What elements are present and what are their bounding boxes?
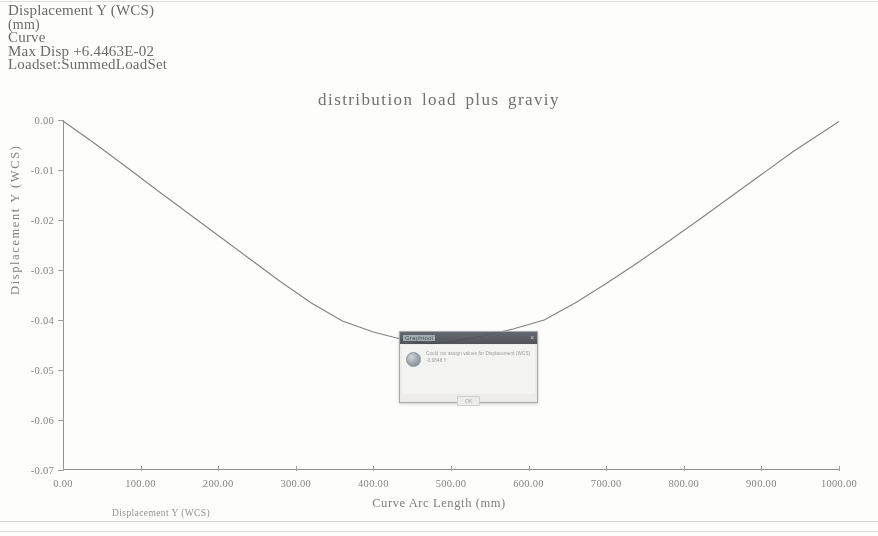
y-tick-label: -0.06 — [31, 415, 54, 426]
y-tick-label: -0.02 — [31, 215, 54, 226]
x-tick-label: 800.00 — [668, 478, 699, 489]
dialog-footer: OK — [400, 394, 537, 407]
x-tick-label: 0.00 — [53, 478, 73, 489]
x-tick-label: 600.00 — [513, 478, 544, 489]
y-tick-label: -0.04 — [31, 315, 54, 326]
graphtool-dialog[interactable]: Graphtool × Could not assign values for … — [399, 331, 538, 403]
y-axis-title: Displacement Y (WCS) — [8, 145, 23, 296]
graph-annotation-block: Displacement Y (WCS) (mm) Curve Max Disp… — [8, 4, 167, 72]
y-tick-label: -0.01 — [31, 165, 54, 176]
y-tick-label: -0.03 — [31, 265, 54, 276]
annotation-loadset: Loadset:SummedLoadSet — [8, 58, 167, 72]
x-tick-label: 200.00 — [203, 478, 234, 489]
close-icon[interactable]: × — [530, 335, 534, 342]
y-tick-label: -0.05 — [31, 365, 54, 376]
dialog-title: Graphtool — [403, 335, 435, 341]
y-tick-label: 0.00 — [34, 115, 54, 126]
legend-series-label: Displacement Y (WCS) — [112, 508, 210, 518]
curve-plot — [63, 120, 839, 470]
info-icon — [406, 352, 421, 367]
x-tick-label: 500.00 — [436, 478, 467, 489]
x-tick-label: 700.00 — [591, 478, 622, 489]
ok-button[interactable]: OK — [457, 396, 480, 406]
x-tick-label: 400.00 — [358, 478, 389, 489]
x-tick-label: 900.00 — [746, 478, 777, 489]
dialog-body: Could not assign values for Displacement… — [402, 345, 535, 394]
dialog-message: Could not assign values for Displacement… — [426, 351, 531, 364]
chart-title: distribution load plus graviy — [0, 90, 878, 110]
dialog-titlebar[interactable]: Graphtool × — [400, 332, 537, 344]
page-rule-bottom-2 — [0, 531, 878, 532]
y-tick-label: -0.07 — [31, 465, 54, 476]
page-rule-bottom-1 — [0, 521, 878, 522]
x-tick-label: 300.00 — [280, 478, 311, 489]
annotation-quantity: Displacement Y (WCS) — [8, 4, 167, 18]
x-tick-label: 1000.00 — [821, 478, 857, 489]
plot-area: 0.00-0.01-0.02-0.03-0.04-0.05-0.06-0.07 … — [63, 120, 839, 470]
curve-path — [63, 121, 839, 344]
x-tick — [839, 466, 840, 471]
x-tick-label: 100.00 — [125, 478, 156, 489]
